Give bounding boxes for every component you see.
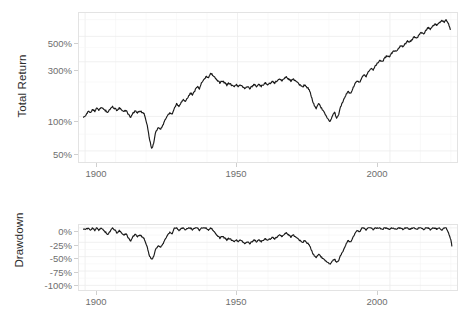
- total-return-line-chart: [79, 13, 457, 162]
- top-y-tick-label-300: 300%: [28, 65, 72, 76]
- top-x-tick-mark-1950: [236, 163, 237, 167]
- bottom-y-tick-label-neg75: -75%: [24, 267, 72, 278]
- bottom-y-tick-label-neg100: -100%: [24, 280, 72, 291]
- bottom-x-tick-mark-1950: [236, 291, 237, 295]
- bottom-y-tick-label-neg50: -50%: [24, 253, 72, 264]
- chart-figure: Total Return 500% 300% 100% 50% 1900 195…: [0, 0, 476, 313]
- top-x-tick-mark-2000: [377, 163, 378, 167]
- bottom-y-tick-label-0: 0%: [24, 226, 72, 237]
- top-x-tick-label-1900: 1900: [71, 168, 121, 179]
- top-y-tick-label-100: 100%: [28, 116, 72, 127]
- top-plot-panel: [78, 12, 458, 163]
- bottom-plot-panel: [78, 224, 458, 291]
- top-y-tick-label-50: 50%: [28, 149, 72, 160]
- drawdown-line-chart: [79, 225, 457, 290]
- bottom-x-tick-label-1950: 1950: [211, 296, 261, 307]
- top-x-tick-mark-1900: [96, 163, 97, 167]
- top-panel-y-axis-title: Total Return: [16, 46, 28, 126]
- bottom-x-tick-label-1900: 1900: [71, 296, 121, 307]
- bottom-x-tick-mark-1900: [96, 291, 97, 295]
- bottom-y-tick-label-neg25: -25%: [24, 240, 72, 251]
- top-x-tick-label-2000: 2000: [352, 168, 402, 179]
- top-y-tick-label-500: 500%: [28, 38, 72, 49]
- top-x-tick-label-1950: 1950: [211, 168, 261, 179]
- bottom-x-tick-mark-2000: [377, 291, 378, 295]
- bottom-x-tick-label-2000: 2000: [352, 296, 402, 307]
